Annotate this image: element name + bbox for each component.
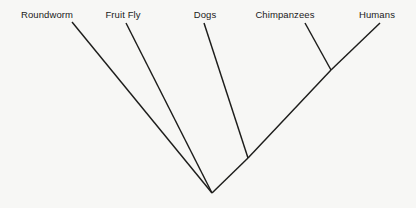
taxon-label-dogs: Dogs: [194, 10, 217, 20]
mammal-stem: [212, 158, 248, 193]
chimpanzees-branch: [305, 23, 331, 70]
fruitfly-branch: [126, 23, 212, 193]
cladogram-diagram: RoundwormFruit FlyDogsChimpanzeesHumans: [0, 0, 416, 208]
primate-stem: [248, 70, 331, 158]
taxon-label-fruit-fly: Fruit Fly: [105, 10, 140, 20]
cladogram-branches: [0, 0, 416, 208]
roundworm-branch: [72, 22, 212, 193]
humans-branch: [331, 23, 380, 70]
taxon-label-humans: Humans: [359, 10, 395, 20]
taxon-label-chimpanzees: Chimpanzees: [255, 10, 314, 20]
taxon-label-roundworm: Roundworm: [21, 10, 73, 20]
dogs-branch: [204, 23, 248, 158]
